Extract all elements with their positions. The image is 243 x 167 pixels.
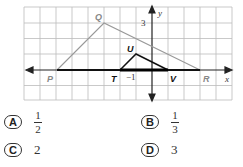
label-p: P [47, 74, 54, 84]
triangle-tuv [120, 54, 168, 70]
choice-c[interactable]: C 2 [4, 139, 41, 161]
choice-c-badge: C [4, 143, 22, 157]
label-t: T [111, 74, 118, 84]
choice-d[interactable]: D 3 [141, 139, 178, 161]
tick-label-x-neg1: −1 [126, 72, 136, 82]
label-u: U [127, 44, 134, 54]
choice-a[interactable]: A 1 2 [4, 111, 42, 133]
choice-d-badge: D [141, 143, 159, 157]
choice-a-fraction: 1 2 [34, 110, 42, 135]
choice-d-value: 3 [171, 142, 178, 158]
coordinate-grid-figure: P Q R T U V 3 −1 y x [0, 0, 243, 104]
label-q: Q [95, 12, 102, 22]
choice-a-badge: A [4, 115, 22, 129]
x-axis-label: x [224, 74, 229, 84]
choice-c-value: 2 [34, 142, 41, 158]
label-v: V [170, 74, 177, 84]
y-axis-label: y [157, 8, 162, 18]
choice-b-fraction: 1 3 [171, 110, 179, 135]
tick-label-y3: 3 [141, 18, 146, 28]
choice-b-badge: B [141, 115, 159, 129]
label-r: R [203, 74, 210, 84]
choice-b[interactable]: B 1 3 [141, 111, 179, 133]
